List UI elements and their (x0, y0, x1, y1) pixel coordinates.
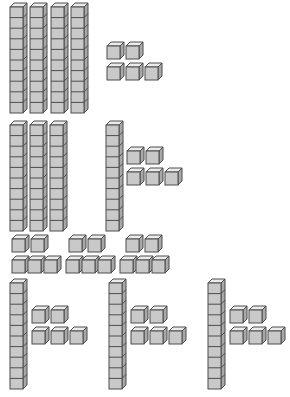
unit-cube-icon (248, 305, 267, 324)
unit-cube-icon (248, 326, 267, 345)
block-group-8 (0, 0, 290, 397)
base-ten-blocks-canvas (0, 0, 290, 397)
unit-cube-icon (229, 326, 248, 345)
unit-cube-icon (229, 305, 248, 324)
ten-rod-icon (207, 278, 226, 390)
unit-cube-icon (267, 326, 286, 345)
